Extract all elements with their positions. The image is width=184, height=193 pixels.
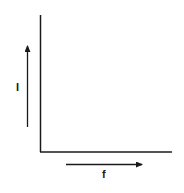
y-axis-label: I xyxy=(16,81,19,93)
axes-diagram xyxy=(0,0,184,193)
x-axis-label: f xyxy=(102,168,106,180)
